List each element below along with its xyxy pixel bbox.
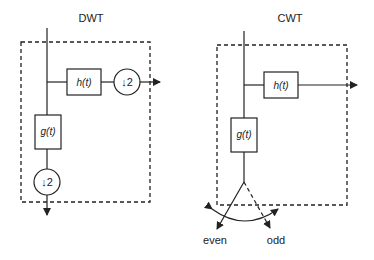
dwt-downsample-low: ↓2 <box>34 169 60 195</box>
dwt-highpass-filter: h(t) <box>67 69 101 95</box>
dwt-highpass-label: h(t) <box>77 77 92 88</box>
dwt-downsample-high-label: ↓2 <box>121 76 133 88</box>
cwt-switch-arc-icon <box>212 209 278 221</box>
cwt-diagram: CWT h(t) g(t) even odd <box>203 12 357 246</box>
cwt-even-label: even <box>203 234 227 246</box>
cwt-highpass-filter: h(t) <box>264 72 298 98</box>
cwt-highpass-label: h(t) <box>274 80 289 91</box>
cwt-title: CWT <box>277 12 302 24</box>
dwt-downsample-high: ↓2 <box>114 69 140 95</box>
cwt-lowpass-filter: g(t) <box>231 118 257 152</box>
cwt-odd-label: odd <box>267 234 285 246</box>
dwt-title: DWT <box>78 12 103 24</box>
cwt-lowpass-label: g(t) <box>237 129 252 140</box>
dwt-downsample-low-label: ↓2 <box>41 176 53 188</box>
dwt-lowpass-label: g(t) <box>41 126 56 137</box>
dwt-lowpass-filter: g(t) <box>35 115 61 149</box>
wavelet-diagram: DWT h(t) ↓2 g(t) ↓2 CWT h( <box>0 0 374 260</box>
dwt-diagram: DWT h(t) ↓2 g(t) ↓2 <box>21 12 160 215</box>
